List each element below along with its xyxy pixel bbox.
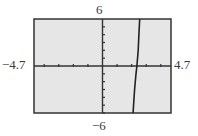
graph-window xyxy=(0,0,198,136)
